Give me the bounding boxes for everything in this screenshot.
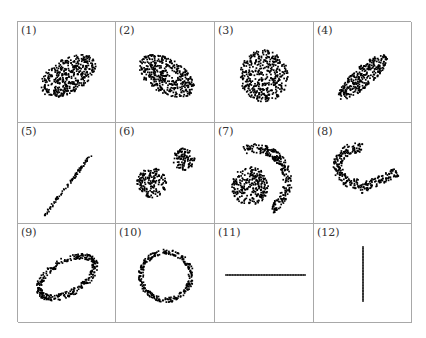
scatter-panel-9: (9)	[18, 224, 116, 323]
scatter-panel-4: (4)	[314, 22, 412, 123]
scatter-panel-10: (10)	[116, 224, 215, 323]
scatter-points	[18, 22, 116, 123]
scatter-points	[18, 123, 116, 224]
scatter-points	[314, 22, 412, 123]
scatter-panel-8: (8)	[314, 123, 412, 224]
scatter-points	[116, 224, 215, 323]
scatter-grid: (1)(2)(3)(4)(5)(6)(7)(8)(9)(10)(11)(12)	[17, 21, 411, 322]
scatter-points	[116, 22, 215, 123]
scatter-panel-6: (6)	[116, 123, 215, 224]
scatter-points	[215, 22, 314, 123]
scatter-panel-2: (2)	[116, 22, 215, 123]
scatter-points	[116, 123, 215, 224]
scatter-panel-3: (3)	[215, 22, 314, 123]
scatter-points	[314, 123, 412, 224]
scatter-panel-11: (11)	[215, 224, 314, 323]
scatter-points	[215, 123, 314, 224]
scatter-points	[18, 224, 116, 323]
scatter-panel-12: (12)	[314, 224, 412, 323]
scatter-panel-7: (7)	[215, 123, 314, 224]
scatter-points	[215, 224, 314, 323]
scatter-panel-5: (5)	[18, 123, 116, 224]
scatter-points	[314, 224, 412, 323]
scatter-panel-1: (1)	[18, 22, 116, 123]
